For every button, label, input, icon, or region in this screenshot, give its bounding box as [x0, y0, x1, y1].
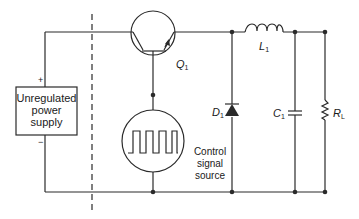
minus-sign: − — [38, 136, 43, 148]
supply-label-line-3: supply — [16, 116, 77, 128]
supply-label: Unregulated power supply — [16, 92, 77, 128]
supply-label-line-1: Unregulated — [16, 92, 77, 104]
plus-sign: + — [38, 74, 43, 86]
square-wave-icon — [128, 131, 178, 153]
diode-triangle — [225, 104, 239, 116]
control-label-line-1: Control — [190, 146, 230, 158]
resistor-label: RL — [333, 107, 345, 123]
diode-label: D1 — [212, 106, 224, 122]
control-label-line-2: signal — [190, 158, 230, 170]
control-signal-label: Control signal source — [190, 146, 230, 182]
inductor-label: L1 — [259, 40, 269, 56]
capacitor-label: C1 — [273, 107, 285, 123]
transistor-label: Q1 — [176, 58, 188, 74]
resistor-zigzag — [322, 100, 328, 120]
transistor-body — [131, 11, 175, 55]
inductor-coil — [245, 24, 283, 32]
supply-label-line-2: power — [16, 104, 77, 116]
control-label-line-3: source — [190, 170, 230, 182]
